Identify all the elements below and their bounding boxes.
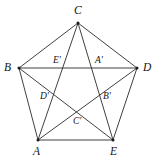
edge-D-E bbox=[113, 68, 137, 140]
edge-B-C bbox=[19, 23, 78, 68]
vertex-dot-b bbox=[18, 67, 21, 70]
vertex-dot-a bbox=[37, 139, 40, 142]
diagonal-B-E bbox=[19, 68, 113, 140]
vertex-label-c: C bbox=[74, 5, 82, 17]
vertex-label-d: D bbox=[143, 62, 151, 74]
diagonal-A-D bbox=[38, 68, 137, 140]
vertex-dot-e bbox=[112, 139, 115, 142]
diagonal-C-E bbox=[78, 23, 113, 140]
geometry-figure: ABCDE A'B'C'D'E' bbox=[0, 0, 159, 167]
vertex-dot-c bbox=[77, 22, 80, 25]
edge-A-B bbox=[19, 68, 38, 140]
diagonal-A-C bbox=[38, 23, 78, 140]
pentagram-drawing bbox=[0, 0, 159, 167]
inner-vertex-label-dprime: D' bbox=[40, 92, 49, 102]
inner-vertex-label-eprime: E' bbox=[53, 56, 61, 66]
inner-vertex-label-bprime: B' bbox=[103, 92, 111, 102]
vertex-label-e: E bbox=[110, 146, 117, 158]
vertex-label-a: A bbox=[33, 146, 40, 158]
vertex-label-b: B bbox=[4, 62, 11, 74]
inner-vertex-label-cprime: C' bbox=[73, 117, 81, 127]
vertex-dot-d bbox=[136, 67, 139, 70]
edge-C-D bbox=[78, 23, 137, 68]
inner-vertex-label-aprime: A' bbox=[95, 56, 103, 66]
